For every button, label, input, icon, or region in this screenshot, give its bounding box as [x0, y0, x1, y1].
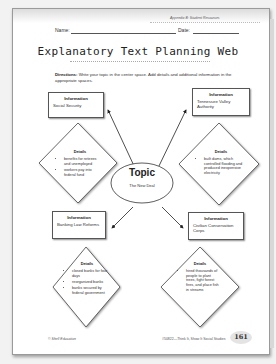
details-label: Details	[180, 262, 220, 267]
detail-item: built dams, which controlled flooding an…	[204, 157, 244, 176]
topic-ellipse: Topic The New Deal	[110, 162, 174, 204]
info-box-banking-law-reforms: Information Banking Law Reforms	[52, 211, 106, 239]
detail-item: benefits for retirees and unemployed	[64, 157, 102, 167]
footer-publisher: © Shell Education	[48, 337, 76, 341]
page-number: 161	[230, 331, 252, 344]
info-label: Information	[197, 92, 245, 97]
topic-value: The New Deal	[110, 183, 174, 188]
info-box-social-security: Information Social Security	[48, 92, 104, 118]
detail-item: closed banks for four days	[72, 269, 108, 279]
info-box-civilian-conservation-corps: Information Civilian Conservation Corps	[188, 212, 244, 240]
info-value: Tennessee Valley Authority	[197, 99, 245, 109]
info-value: Civilian Conservation Corps	[193, 223, 239, 233]
details-diamond-social-security: Details benefits for retirees and unempl…	[38, 122, 118, 204]
info-box-tennessee-valley-authority: Information Tennessee Valley Authority	[192, 88, 250, 116]
footer-series: #50822—Think It, Show It Social Studies	[162, 337, 225, 341]
info-value: Banking Law Reforms	[57, 222, 101, 227]
detail-item: reorganized banks	[72, 280, 108, 285]
detail-item: workers pay into federal fund	[64, 168, 102, 178]
info-label: Information	[193, 216, 239, 221]
details-diamond-banking: Details closed banks for four days reorg…	[52, 246, 120, 328]
info-label: Information	[53, 96, 99, 101]
details-label: Details	[66, 262, 108, 267]
details-label: Details	[58, 150, 102, 155]
info-value: Social Security	[53, 103, 99, 108]
details-label: Details	[198, 150, 244, 155]
topic-label: Topic	[110, 167, 174, 178]
details-diamond-tva: Details built dams, which controlled flo…	[178, 122, 260, 206]
detail-item: hired thousands of people to plant trees…	[186, 269, 220, 293]
details-diamond-ccc: Details hired thousands of people to pla…	[160, 246, 240, 328]
detail-item: banks secured by federal government	[72, 286, 108, 296]
info-label: Information	[57, 215, 101, 220]
